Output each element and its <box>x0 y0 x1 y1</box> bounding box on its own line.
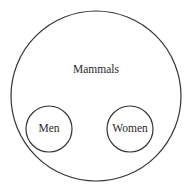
men-label: Men <box>38 122 59 134</box>
women-label: Women <box>112 122 148 134</box>
mammals-label: Mammals <box>73 63 120 75</box>
euler-diagram: Mammals Men Women <box>0 0 188 185</box>
mammals-circle <box>11 11 181 181</box>
